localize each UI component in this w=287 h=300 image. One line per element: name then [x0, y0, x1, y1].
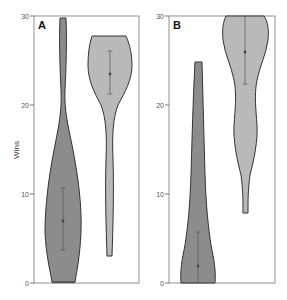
panel-a-label: A [38, 19, 46, 31]
panel-a-tick-0: 0 [25, 280, 29, 287]
panel-a-tick-10: 10 [21, 191, 29, 198]
panel-b-tick-20: 20 [156, 102, 164, 109]
violin-figure: Wins 0 10 20 30 A [0, 0, 287, 300]
y-axis-label: Wins [12, 141, 21, 159]
violin-b-group-2 [223, 16, 269, 213]
mean-point-a-group-1 [62, 220, 65, 223]
panel-a: 0 10 20 30 A [21, 13, 139, 287]
panel-b-tick-30: 30 [156, 13, 164, 20]
panel-b-tick-0: 0 [160, 280, 164, 287]
mean-point-b-group-1 [197, 265, 200, 268]
panel-b: 0 10 20 30 B [156, 13, 275, 287]
panel-a-tick-30: 30 [21, 13, 29, 20]
mean-point-a-group-2 [109, 73, 112, 76]
panel-b-label: B [173, 19, 181, 31]
panel-b-tick-10: 10 [156, 191, 164, 198]
panel-a-y-axis [30, 16, 34, 283]
mean-point-b-group-2 [244, 51, 247, 54]
panel-a-tick-20: 20 [21, 102, 29, 109]
panel-b-y-axis [165, 16, 169, 283]
